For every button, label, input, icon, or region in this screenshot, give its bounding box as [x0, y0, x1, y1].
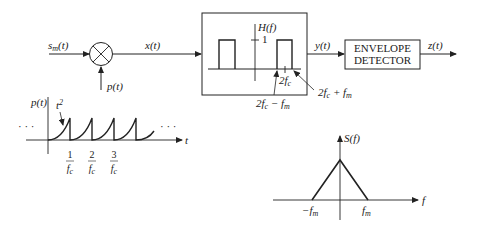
upper-edge-label: 2fc + fm [318, 86, 352, 100]
carrier-input: p(t) [101, 67, 123, 93]
y-label: y(t) [314, 39, 331, 52]
ellipsis-right: · · · [160, 120, 177, 132]
svg-text:fc: fc [111, 163, 118, 176]
x-label: x(t) [144, 39, 161, 52]
carrier-label: p(t) [106, 80, 123, 93]
spectrum-tick-pos: fm [362, 204, 371, 218]
pulse-tick-2: 2 fc [88, 149, 96, 176]
pulse-tick-3: 3 fc [110, 149, 118, 176]
curve-label: t2 [56, 98, 63, 111]
filter-gain: 1 [262, 33, 268, 45]
detector-output: z(t) [420, 39, 456, 54]
svg-text:3: 3 [112, 149, 117, 160]
pulse-tick-1: 1 fc [66, 149, 74, 176]
lower-edge-label: 2fc − fm [256, 97, 290, 111]
svg-text:fc: fc [89, 163, 96, 176]
input-signal: sm(t) [48, 39, 89, 54]
spectrum-plot: S(f) f −fm fm [273, 132, 427, 220]
ellipsis-left: · · · [18, 120, 35, 132]
envelope-detector-block: ENVELOPE DETECTOR [345, 40, 420, 69]
svg-text:fc: fc [67, 163, 74, 176]
filter-output: y(t) [307, 39, 344, 54]
envelope-detector-line2: DETECTOR [354, 54, 412, 66]
bandpass-filter-block: H(f) 1 2fc [202, 13, 307, 95]
mixer-output: x(t) [113, 39, 201, 54]
pulse-plot: p(t) t · · · · · · t2 1 fc 2 fc 3 fc [18, 96, 189, 176]
mixer [90, 43, 113, 66]
input-signal-label: sm(t) [48, 39, 69, 53]
svg-text:1: 1 [68, 149, 73, 160]
pulse-ylabel: p(t) [30, 96, 47, 109]
spectrum-ylabel: S(f) [344, 132, 360, 145]
z-label: z(t) [427, 39, 443, 52]
envelope-detector-line1: ENVELOPE [354, 42, 411, 54]
spectrum-xlabel: f [422, 194, 427, 206]
svg-text:2: 2 [90, 149, 95, 160]
diagram-canvas: sm(t) p(t) x(t) H(f) 1 2fc 2fc − fm [0, 0, 477, 229]
pulse-xlabel: t [185, 134, 189, 146]
spectrum-tick-neg: −fm [302, 204, 318, 218]
